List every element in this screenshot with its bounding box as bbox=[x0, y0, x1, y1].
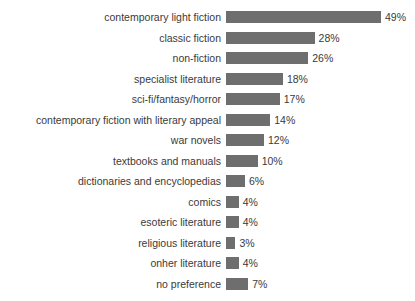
bar-track: 12% bbox=[226, 134, 415, 146]
bar-category-label: religious literature bbox=[0, 236, 221, 250]
bar bbox=[226, 237, 235, 249]
bar-track: 4% bbox=[226, 196, 415, 208]
bar bbox=[226, 216, 239, 228]
bar-track: 17% bbox=[226, 93, 415, 105]
bar-category-label: war novels bbox=[0, 133, 221, 147]
chart-bar-row: contemporary fiction with literary appea… bbox=[0, 113, 415, 134]
bar-category-label: comics bbox=[0, 195, 221, 209]
chart-bar-row: religious literature3% bbox=[0, 236, 415, 257]
bar-value-label: 28% bbox=[319, 31, 340, 45]
chart-bar-row: textbooks and manuals10% bbox=[0, 154, 415, 175]
chart-bar-row: esoteric literature4% bbox=[0, 215, 415, 236]
bar bbox=[226, 134, 264, 146]
bar-value-label: 12% bbox=[268, 133, 289, 147]
bar-category-label: non-fiction bbox=[0, 51, 221, 65]
bar-category-label: no preference bbox=[0, 277, 221, 291]
bar-value-label: 26% bbox=[312, 51, 333, 65]
bar-value-label: 17% bbox=[284, 92, 305, 106]
bar-category-label: contemporary fiction with literary appea… bbox=[0, 113, 221, 127]
bar-chart: contemporary light fiction49%classic fic… bbox=[0, 0, 415, 301]
bar-category-label: classic fiction bbox=[0, 31, 221, 45]
bar bbox=[226, 175, 245, 187]
bar-category-label: textbooks and manuals bbox=[0, 154, 221, 168]
bar-category-label: contemporary light fiction bbox=[0, 10, 221, 24]
bar bbox=[226, 11, 381, 23]
chart-bar-row: contemporary light fiction49% bbox=[0, 10, 415, 31]
bar-track: 4% bbox=[226, 216, 415, 228]
bar bbox=[226, 32, 315, 44]
bar-track: 26% bbox=[226, 52, 415, 64]
bar-value-label: 18% bbox=[287, 72, 308, 86]
bar bbox=[226, 73, 283, 85]
bar bbox=[226, 257, 239, 269]
chart-bar-row: classic fiction28% bbox=[0, 31, 415, 52]
bar-value-label: 14% bbox=[274, 113, 295, 127]
chart-plot-area: contemporary light fiction49%classic fic… bbox=[0, 10, 415, 301]
bar-track: 18% bbox=[226, 73, 415, 85]
bar-value-label: 4% bbox=[243, 195, 258, 209]
bar-value-label: 7% bbox=[252, 277, 267, 291]
bar-value-label: 4% bbox=[243, 215, 258, 229]
chart-bar-row: comics4% bbox=[0, 195, 415, 216]
chart-title bbox=[0, 0, 415, 5]
bar-category-label: dictionaries and encyclopedias bbox=[0, 174, 221, 188]
bar-track: 10% bbox=[226, 155, 415, 167]
bar bbox=[226, 93, 280, 105]
bar-track: 7% bbox=[226, 278, 415, 290]
chart-bar-row: onher literature4% bbox=[0, 256, 415, 277]
bar-value-label: 4% bbox=[243, 256, 258, 270]
chart-bar-row: sci-fi/fantasy/horror17% bbox=[0, 92, 415, 113]
chart-bar-row: specialist literature18% bbox=[0, 72, 415, 93]
bar-track: 4% bbox=[226, 257, 415, 269]
bar-category-label: onher literature bbox=[0, 256, 221, 270]
bar-track: 3% bbox=[226, 237, 415, 249]
chart-bar-row: war novels12% bbox=[0, 133, 415, 154]
bar-track: 49% bbox=[226, 11, 415, 23]
bar-category-label: specialist literature bbox=[0, 72, 221, 86]
bar-category-label: sci-fi/fantasy/horror bbox=[0, 92, 221, 106]
bar-category-label: esoteric literature bbox=[0, 215, 221, 229]
bar-value-label: 6% bbox=[249, 174, 264, 188]
bar-track: 6% bbox=[226, 175, 415, 187]
bar bbox=[226, 278, 248, 290]
chart-bar-row: non-fiction26% bbox=[0, 51, 415, 72]
bar-track: 28% bbox=[226, 32, 415, 44]
bar-track: 14% bbox=[226, 114, 415, 126]
bar-value-label: 49% bbox=[385, 10, 406, 24]
bar bbox=[226, 196, 239, 208]
bar-value-label: 3% bbox=[239, 236, 254, 250]
bar-value-label: 10% bbox=[262, 154, 283, 168]
bar bbox=[226, 52, 308, 64]
chart-bar-row: dictionaries and encyclopedias6% bbox=[0, 174, 415, 195]
bar bbox=[226, 155, 258, 167]
chart-bar-row: no preference7% bbox=[0, 277, 415, 298]
bar bbox=[226, 114, 270, 126]
